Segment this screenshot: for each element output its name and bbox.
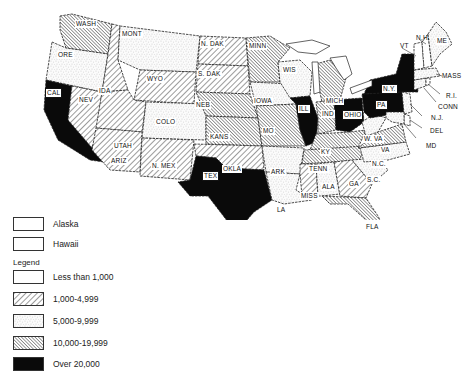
state-kans	[206, 116, 262, 146]
blank-swatch	[13, 270, 44, 284]
label-ark: ARK	[270, 168, 286, 176]
hawaii-label: Hawaii	[53, 239, 79, 249]
label-la: LA	[276, 206, 286, 214]
state-del	[404, 114, 410, 126]
label-wyo: WYO	[146, 75, 164, 83]
label-minn: MINN	[248, 42, 267, 50]
label-vt: VT	[399, 42, 410, 50]
label-ohio: OHIO	[342, 110, 363, 120]
us-choropleth-map	[0, 0, 467, 220]
label-ind: IND	[321, 110, 335, 118]
label-ga: GA	[348, 180, 360, 188]
legend-item-5000-9999: 5,000-9,999	[13, 314, 98, 328]
label-kans: KANS	[209, 133, 230, 141]
state-ariz	[92, 128, 142, 172]
label-wis: WIS	[282, 66, 297, 74]
wide-diagonal-swatch	[13, 292, 44, 306]
solid-black-swatch	[13, 357, 44, 371]
label-mo: MO	[262, 127, 275, 135]
legend-item-over-20000: Over 20,000	[13, 357, 100, 371]
legend-label: 10,000-19,999	[53, 338, 108, 348]
label-mass: MASS	[441, 72, 462, 80]
legend-item-less-1000: Less than 1,000	[13, 270, 114, 284]
label-wva: W. VA	[363, 135, 384, 143]
state-sdak	[196, 64, 250, 94]
legend-label: 5,000-9,999	[53, 316, 98, 326]
legend-title: Legend	[13, 258, 40, 267]
label-ida: IDA	[98, 87, 111, 95]
label-ky: KY	[320, 148, 331, 156]
state-fla	[322, 196, 388, 220]
label-ala: ALA	[321, 183, 336, 191]
label-va: VA	[380, 146, 391, 154]
label-nc: N.C.	[371, 160, 387, 168]
state-nmex	[140, 138, 194, 180]
label-nev: NEV	[78, 96, 94, 104]
label-ri: R.I.	[445, 92, 458, 100]
label-nmex: N. MEX	[151, 162, 177, 170]
label-tenn: TENN	[308, 165, 329, 173]
legend-label: Less than 1,000	[53, 272, 114, 282]
label-miss: MISS	[300, 192, 319, 200]
label-mich: MICH	[325, 97, 344, 105]
label-ore: ORE	[57, 51, 74, 59]
lake-superior	[286, 40, 330, 54]
legend-item-10000-19999: 10,000-19,999	[13, 336, 108, 350]
label-okla: OKLA	[222, 165, 242, 173]
state-md	[386, 112, 404, 124]
label-fla: FLA	[365, 223, 380, 231]
stipple-swatch	[13, 314, 44, 328]
state-wyo	[134, 70, 196, 104]
label-neb: NEB	[195, 101, 211, 109]
label-conn: CONN	[437, 103, 459, 111]
inset-alaska: Alaska	[13, 217, 79, 231]
label-del: DEL	[429, 127, 444, 135]
label-sdak: S. DAK	[197, 70, 222, 78]
dense-diagonal-swatch	[13, 336, 44, 350]
label-mont: MONT	[121, 30, 143, 38]
legend-item-1000-4999: 1,000-4,999	[13, 292, 98, 306]
label-sc: S.C.	[366, 176, 381, 184]
legend-label: Over 20,000	[53, 359, 100, 369]
alaska-swatch	[13, 217, 44, 231]
label-utah: UTAH	[113, 142, 133, 150]
alaska-label: Alaska	[53, 219, 79, 229]
label-me: ME	[436, 37, 448, 45]
label-pa: PA	[375, 100, 388, 110]
label-ny: N.Y.	[381, 84, 398, 94]
hawaii-swatch	[13, 237, 44, 251]
label-ill: ILL	[297, 104, 311, 114]
label-md: MD	[425, 142, 438, 150]
label-wash: WASH	[75, 20, 97, 28]
label-ndak: N. DAK	[200, 40, 225, 48]
inset-hawaii: Hawaii	[13, 237, 79, 251]
label-iowa: IOWA	[253, 97, 273, 105]
label-tex: TEX	[202, 171, 219, 181]
label-colo: COLO	[155, 118, 176, 126]
label-ariz: ARIZ	[110, 157, 128, 165]
legend-label: 1,000-4,999	[53, 294, 98, 304]
label-nh: N.H.	[415, 34, 431, 42]
label-cal: CAL	[45, 88, 62, 98]
label-nj: N.J.	[430, 114, 444, 122]
